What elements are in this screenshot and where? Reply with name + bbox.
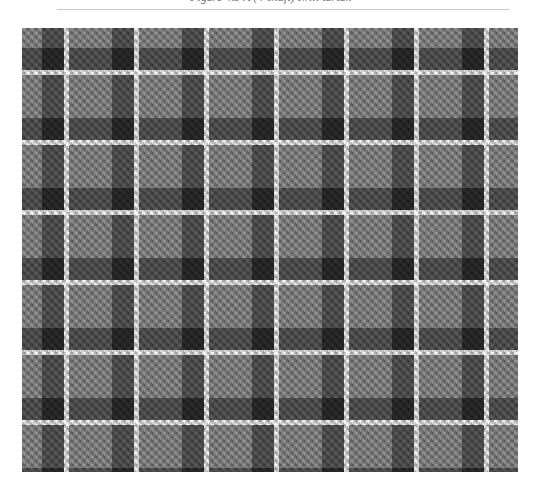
horizontal-rule: [57, 9, 509, 10]
tartan-swatch-image: [22, 28, 518, 472]
document-page: Figure 4.3 A (4-shaft) twill tartan: [0, 0, 542, 500]
tartan-figure: [22, 28, 518, 472]
figure-caption: Figure 4.3 A (4-shaft) twill tartan: [0, 0, 542, 3]
figure-caption-strip: Figure 4.3 A (4-shaft) twill tartan: [0, 0, 542, 9]
